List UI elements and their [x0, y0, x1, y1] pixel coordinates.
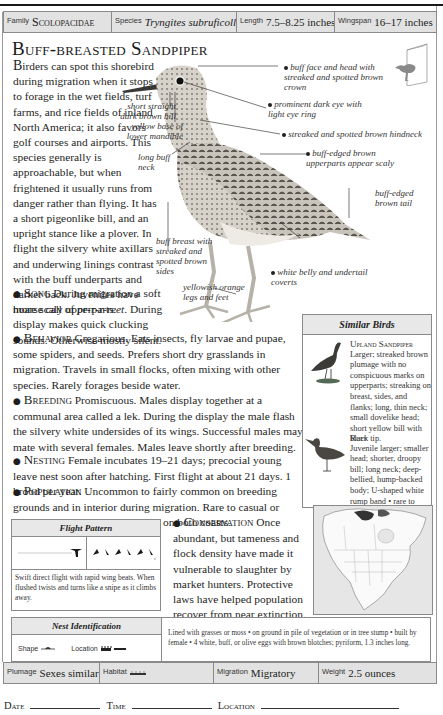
observation-log: Date Time Location — [4, 700, 440, 711]
label-belly: white belly and undertail coverts — [271, 267, 371, 287]
upland-sandpiper-description: Larger; streaked brown plumage with no c… — [350, 350, 432, 445]
plumage-cell: Plumage Sexes similar — [4, 663, 100, 683]
zigzag-flight-icon — [87, 537, 161, 570]
section-breeding: ● Breeding Promiscuous. Males display to… — [13, 392, 303, 455]
bird-illustration: buff face and head with streaked and spo… — [110, 62, 430, 322]
time-label: Time — [106, 700, 125, 711]
nesting-heading: Nesting — [24, 452, 65, 467]
behavior-heading: Behavior — [24, 330, 72, 345]
location-label: Location — [218, 700, 255, 711]
flight-pattern-heading: Flight Pattern — [12, 520, 160, 537]
similar-bird-upland-sandpiper: Upland Sandpiper Larger; streaked brown … — [350, 339, 432, 445]
date-label: Date — [4, 700, 24, 711]
flight-pattern-description: Swift direct flight with rapid wing beat… — [12, 570, 160, 605]
species-label: Species — [115, 16, 142, 25]
label-eye: prominent dark eye with light eye ring — [268, 99, 368, 119]
label-mandible: yellow base of lower mandible — [121, 121, 183, 141]
wingspan-value: 16–17 inches — [374, 16, 432, 28]
nest-location-label: Location — [71, 645, 97, 652]
upland-sandpiper-illustration — [307, 339, 349, 385]
twisting-flight-diagram — [87, 537, 161, 569]
breeding-heading: Breeding — [24, 392, 72, 407]
ground-scrape-nest-icon — [41, 644, 55, 652]
family-label: Family — [7, 16, 29, 25]
length-value: 7.5–8.25 inches — [266, 16, 335, 28]
song-call: pr-r-r-reet — [77, 303, 124, 315]
nest-identification-heading: Nest Identification — [12, 618, 161, 635]
ruff-illustration — [305, 435, 349, 475]
label-hindneck: streaked and spotted brown hindneck — [282, 129, 432, 139]
label-tail: buff-edged brown tail — [375, 188, 429, 208]
plumage-value: Sexes similar — [40, 667, 99, 679]
range-map — [313, 505, 433, 615]
length-label: Length — [240, 16, 263, 25]
weight-value: 2.5 ounces — [348, 667, 395, 679]
nest-identification-panel: Nest Identification Shape Location — [12, 618, 162, 661]
habitat-cell: Habitat — [100, 663, 214, 683]
label-breast: buff breast with streaked and spotted br… — [156, 236, 216, 276]
top-rule — [0, 4, 443, 6]
ruff-name: Ruff — [350, 433, 432, 444]
nest-description: Lined with grasses or moss • on ground i… — [162, 618, 430, 661]
species-details-bar: Plumage Sexes similar Habitat Migration … — [3, 662, 437, 684]
right-rule — [436, 6, 437, 662]
upland-sandpiper-name: Upland Sandpiper — [350, 339, 432, 350]
intro-dropcap: B — [13, 58, 22, 73]
label-bill: short straight dark brown bill — [118, 101, 176, 121]
label-upperparts: buff-edged brown upperparts appear scaly — [306, 148, 406, 168]
label-legs: yellowish orange legs and feet — [183, 282, 253, 302]
song-heading: Song — [24, 285, 51, 300]
similar-birds-box: Similar Birds Upland Sandpiper Larger; s… — [302, 314, 432, 508]
nest-shape-location-row: Shape Location — [12, 635, 161, 661]
time-field[interactable] — [132, 700, 212, 709]
population-heading: Population — [24, 483, 82, 498]
conservation-heading: Conservation — [184, 514, 254, 529]
direct-flight-diagram — [12, 537, 87, 569]
label-neck: long buff neck — [138, 152, 178, 172]
flight-pattern-diagrams — [12, 537, 160, 570]
grassland-habitat-icon — [130, 670, 146, 676]
weight-cell: Weight 2.5 ounces — [319, 663, 436, 683]
section-conservation: ● Conservation Once abundant, but tamene… — [173, 514, 308, 622]
nest-shape-label: Shape — [18, 645, 38, 652]
nest-identification-box: Nest Identification Shape Location Lined… — [11, 617, 431, 662]
north-america-map — [314, 506, 433, 615]
species-info-bar: Family Scolopacidae Species Tryngites su… — [3, 11, 437, 33]
species-cell: Species Tryngites subruficollis — [112, 12, 237, 32]
plumage-label: Plumage — [7, 667, 37, 676]
migration-value: Migratory — [251, 667, 296, 679]
length-cell: Length 7.5–8.25 inches — [237, 12, 335, 32]
similar-birds-heading: Similar Birds — [303, 315, 431, 335]
wingspan-label: Wingspan — [338, 16, 371, 25]
species-value: Tryngites subruficollis — [145, 16, 237, 28]
flight-pattern-box: Flight Pattern Swift direct flight with … — [11, 519, 161, 611]
migration-cell: Migration Migratory — [214, 663, 319, 683]
ground-location-icon — [101, 644, 127, 652]
migration-label: Migration — [217, 667, 248, 676]
wingspan-cell: Wingspan 16–17 inches — [335, 12, 436, 32]
location-field[interactable] — [261, 700, 399, 709]
family-cell: Family Scolopacidae — [4, 12, 112, 32]
page-title: Buff-breasted Sandpiper — [12, 38, 208, 60]
section-behavior: ● Behavior Gregarious. Eats insects, fly… — [13, 330, 303, 393]
label-face: buff face and head with streaked and spo… — [284, 62, 394, 92]
direct-flight-icon — [12, 537, 86, 570]
date-field[interactable] — [30, 700, 100, 709]
left-rule — [2, 12, 3, 662]
family-value: Scolopacidae — [32, 15, 94, 30]
weight-label: Weight — [322, 667, 345, 676]
habitat-label: Habitat — [103, 667, 127, 676]
